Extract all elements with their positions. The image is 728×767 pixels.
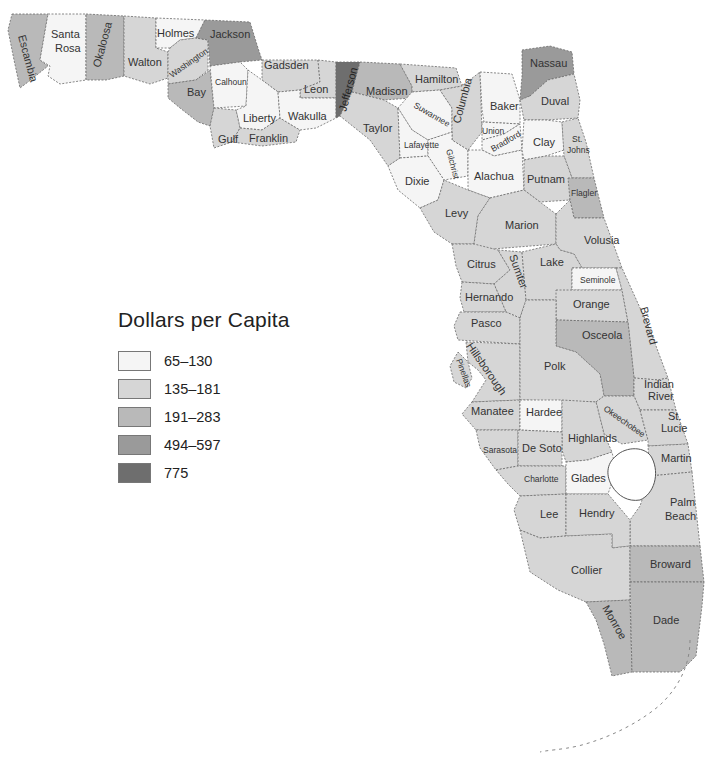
svg-text:Alachua: Alachua — [474, 170, 515, 182]
svg-text:Pasco: Pasco — [471, 317, 502, 329]
svg-text:Lafayette: Lafayette — [404, 140, 439, 150]
legend-label: 65–130 — [164, 353, 212, 369]
svg-text:Osceola: Osceola — [582, 329, 623, 341]
svg-text:Hardee: Hardee — [526, 406, 562, 418]
svg-text:Franklin: Franklin — [249, 132, 288, 144]
svg-text:Hamilton: Hamilton — [415, 73, 458, 85]
svg-text:Johns: Johns — [567, 145, 590, 155]
legend-label: 775 — [164, 465, 188, 481]
county-flagler — [568, 178, 604, 218]
svg-text:Liberty: Liberty — [243, 112, 277, 124]
svg-text:Taylor: Taylor — [363, 122, 393, 134]
svg-text:Santa: Santa — [51, 28, 81, 40]
legend-title: Dollars per Capita — [118, 308, 290, 332]
svg-text:Marion: Marion — [505, 219, 539, 231]
legend-row: 191–283 — [118, 404, 290, 430]
legend-swatch — [118, 463, 151, 483]
svg-text:Calhoun: Calhoun — [215, 77, 247, 87]
legend-swatch — [118, 351, 151, 371]
svg-text:Lucie: Lucie — [661, 422, 687, 434]
svg-text:Collier: Collier — [571, 564, 603, 576]
svg-text:Charlotte: Charlotte — [524, 474, 559, 484]
svg-text:De Soto: De Soto — [522, 442, 562, 454]
legend-label: 494–597 — [164, 437, 220, 453]
svg-text:St.: St. — [668, 410, 681, 422]
svg-text:Hernando: Hernando — [465, 291, 513, 303]
county-dade — [630, 582, 704, 672]
svg-text:Palm: Palm — [670, 496, 695, 508]
svg-text:Lake: Lake — [540, 256, 564, 268]
svg-text:Bay: Bay — [187, 86, 206, 98]
svg-text:Martin: Martin — [661, 452, 692, 464]
svg-text:Sarasota: Sarasota — [483, 445, 517, 455]
lake-okeechobee — [608, 449, 656, 501]
legend-label: 191–283 — [164, 409, 220, 425]
svg-text:Indian: Indian — [644, 378, 674, 390]
svg-text:Union: Union — [482, 126, 504, 136]
svg-text:Gadsden: Gadsden — [264, 59, 309, 71]
svg-text:Duval: Duval — [541, 95, 569, 107]
legend-label: 135–181 — [164, 381, 220, 397]
svg-text:Citrus: Citrus — [467, 258, 496, 270]
svg-text:Walton: Walton — [128, 56, 162, 68]
svg-text:Gulf: Gulf — [218, 133, 239, 145]
map-legend: Dollars per Capita 65–130 135–181 191–28… — [118, 308, 290, 488]
svg-text:Hendry: Hendry — [579, 507, 615, 519]
svg-text:Manatee: Manatee — [471, 405, 514, 417]
legend-row: 775 — [118, 460, 290, 486]
svg-text:Orange: Orange — [573, 298, 610, 310]
svg-text:Clay: Clay — [533, 136, 556, 148]
svg-text:Flagler: Flagler — [571, 188, 597, 198]
legend-row: 135–181 — [118, 376, 290, 402]
svg-text:Putnam: Putnam — [527, 173, 565, 185]
svg-text:Dade: Dade — [653, 614, 679, 626]
svg-text:St.: St. — [572, 134, 582, 144]
svg-text:Holmes: Holmes — [157, 27, 195, 39]
svg-text:Nassau: Nassau — [530, 57, 567, 69]
svg-text:Polk: Polk — [544, 360, 566, 372]
svg-text:Broward: Broward — [650, 558, 691, 570]
svg-text:Seminole: Seminole — [580, 275, 616, 285]
svg-text:Beach: Beach — [665, 510, 696, 522]
legend-row: 65–130 — [118, 348, 290, 374]
legend-swatch — [118, 379, 151, 399]
svg-text:Highlands: Highlands — [568, 432, 617, 444]
svg-text:Levy: Levy — [445, 207, 469, 219]
svg-text:Lee: Lee — [540, 508, 558, 520]
svg-text:Rosa: Rosa — [55, 42, 82, 54]
svg-text:Jackson: Jackson — [210, 28, 250, 40]
legend-swatch — [118, 435, 151, 455]
svg-text:Wakulla: Wakulla — [288, 110, 328, 122]
svg-text:Volusia: Volusia — [584, 234, 620, 246]
svg-text:Leon: Leon — [304, 83, 328, 95]
legend-swatch — [118, 407, 151, 427]
legend-row: 494–597 — [118, 432, 290, 458]
svg-text:River: River — [648, 390, 674, 402]
svg-text:Glades: Glades — [571, 472, 606, 484]
svg-text:Madison: Madison — [366, 85, 408, 97]
svg-text:Dixie: Dixie — [405, 175, 429, 187]
svg-text:Baker: Baker — [490, 100, 519, 112]
county-baker — [480, 72, 520, 124]
florida-county-map: Escambia Santa Rosa Okaloosa Walton Holm… — [0, 0, 728, 767]
